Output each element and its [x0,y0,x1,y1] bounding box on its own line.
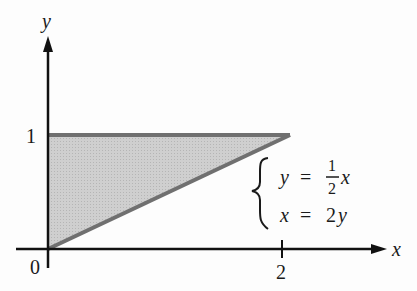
origin-label: 0 [30,256,40,278]
eq2-coefficient: 2 [326,204,336,226]
diagram: y x 0 2 1 y = 1 2 x x = 2 y [0,0,417,291]
y-axis-arrow-icon [43,36,53,52]
eq1-variable: x [340,166,350,188]
eq2-variable: y [336,204,347,227]
y-tick-label: 1 [26,125,36,147]
eq2-equals: = [300,204,311,226]
x-axis-arrow-icon [371,244,387,254]
eq1-numerator: 1 [328,157,336,174]
x-tick-label: 2 [276,261,286,283]
region-plot: y x 0 2 1 y = 1 2 x x = 2 y [0,0,417,291]
eq2-lhs: x [279,204,289,226]
x-axis-label: x [391,238,401,260]
eq1-denominator: 2 [328,180,336,197]
eq1-equals: = [300,166,311,188]
y-axis-label: y [40,10,51,33]
eq1-lhs: y [278,166,289,189]
left-brace [252,158,268,229]
